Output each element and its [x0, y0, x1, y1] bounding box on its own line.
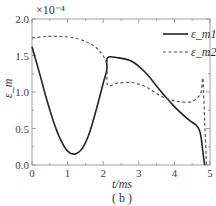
series-line-1	[32, 47, 205, 165]
x-tick-label: 4	[172, 167, 178, 179]
axis-ticks	[32, 19, 210, 165]
series-lines	[32, 36, 206, 165]
x-axis-label: t/ms	[112, 177, 132, 191]
legend-label-1: ε_m1	[191, 27, 216, 41]
y-tick-label: 2.0	[15, 13, 29, 25]
x-tick-label: 0	[29, 167, 35, 179]
y-multiplier: ×10⁻⁴	[36, 3, 65, 17]
chart: 0123450.00.51.01.52.0 ×10⁻⁴ ε_m t/ms ( b…	[0, 0, 216, 206]
figure-caption: ( b )	[112, 191, 132, 205]
y-tick-label: 1.0	[15, 86, 29, 98]
series-line-2	[32, 36, 206, 165]
x-tick-label: 1	[65, 167, 71, 179]
x-tick-label: 2	[100, 167, 106, 179]
y-axis-label: ε_m	[1, 78, 15, 98]
y-tick-label: 0.5	[15, 123, 29, 135]
legend-label-2: ε_m2	[191, 45, 216, 59]
plot-frame	[32, 19, 210, 165]
legend: ε_m1 ε_m2	[163, 27, 216, 59]
x-tick-label: 3	[136, 167, 142, 179]
x-tick-label: 5	[207, 167, 213, 179]
y-tick-label: 0.0	[15, 159, 29, 171]
y-tick-label: 1.5	[15, 50, 29, 62]
